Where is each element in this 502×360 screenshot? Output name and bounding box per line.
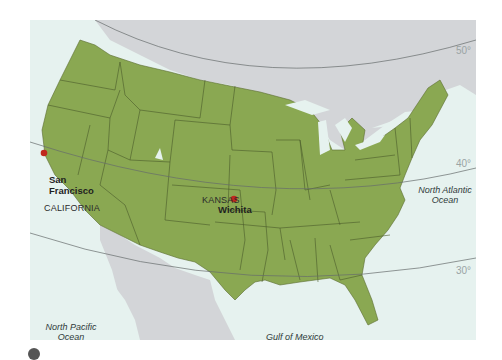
figure-marker-icon (28, 348, 40, 360)
wichita-label: Wichita (218, 205, 252, 216)
san-francisco-label: San Francisco (49, 175, 94, 197)
parallel-label-40: 40° (456, 158, 471, 170)
parallel-label-50: 50° (456, 45, 471, 57)
parallel-label-30: 30° (456, 265, 471, 277)
north-pacific-label: North Pacific Ocean (36, 322, 106, 340)
gulf-of-mexico-label: Gulf of Mexico (266, 332, 324, 340)
san-francisco-marker (41, 150, 48, 157)
california-label: CALIFORNIA (44, 203, 100, 213)
north-atlantic-label: North Atlantic Ocean (410, 185, 476, 206)
map-canvas (30, 20, 476, 340)
map-frame: 50° 40° 30° North Pacific Ocean North At… (30, 20, 476, 340)
